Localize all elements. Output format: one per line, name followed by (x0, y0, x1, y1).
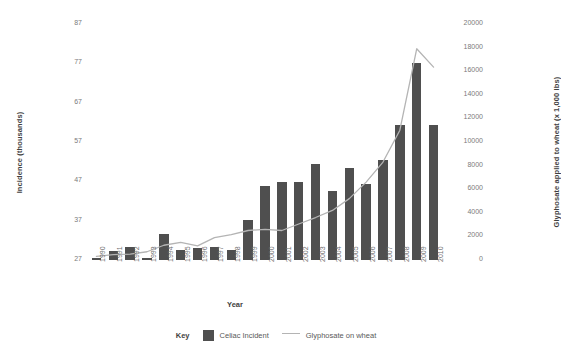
x-axis-tick-2008: 2008 (403, 246, 410, 262)
x-axis-tick-2002: 2002 (302, 246, 309, 262)
x-axis-tick-2005: 2005 (352, 246, 359, 262)
y-axis-right-title: Glyphosate applied to wheat (x 1,000 lbs… (552, 78, 561, 228)
y-axis-left-tick-37: 37 (56, 216, 82, 223)
x-axis-tick-1997: 1997 (217, 246, 224, 262)
x-axis-tick-1991: 1991 (116, 246, 123, 262)
x-axis-tick-2003: 2003 (319, 246, 326, 262)
legend-label-glyphosate-on-wheat: Glyphosate on wheat (306, 331, 376, 340)
y-axis-right-tick-12000: 12000 (449, 113, 483, 120)
legend-item-celiac-incident: Celiac Incident (203, 330, 269, 341)
y-axis-left-tick-47: 47 (56, 176, 82, 183)
y-axis-right-tick-18000: 18000 (449, 43, 483, 50)
x-axis-tick-2009: 2009 (420, 246, 427, 262)
x-axis-tick-2010: 2010 (437, 246, 444, 262)
y-axis-right-tick-6000: 6000 (449, 184, 483, 191)
y-axis-right-tick-20000: 20000 (449, 19, 483, 26)
x-axis-tick-1992: 1992 (133, 246, 140, 262)
y-axis-right-tick-8000: 8000 (449, 161, 483, 168)
y-axis-right-tick-4000: 4000 (449, 208, 483, 215)
y-axis-right-tick-14000: 14000 (449, 90, 483, 97)
chart-legend: Key Celiac Incident Glyphosate on wheat (0, 330, 552, 341)
x-axis-tick-2006: 2006 (369, 246, 376, 262)
line-series-glyphosate-on-wheat (88, 24, 442, 260)
legend-label-celiac-incident: Celiac Incident (220, 331, 269, 340)
x-axis-tick-1996: 1996 (201, 246, 208, 262)
x-axis-tick-1990: 1990 (99, 246, 106, 262)
x-axis-tick-2004: 2004 (335, 246, 342, 262)
y-axis-left-tick-27: 27 (56, 255, 82, 262)
x-axis-tick-1995: 1995 (184, 246, 191, 262)
x-axis-tick-1999: 1999 (251, 246, 258, 262)
line-swatch-icon (282, 333, 300, 334)
x-axis-tick-1998: 1998 (234, 246, 241, 262)
legend-key-label: Key (176, 331, 190, 340)
y-axis-right-tick-16000: 16000 (449, 66, 483, 73)
bar-swatch-icon (203, 330, 214, 341)
x-axis-tick-2007: 2007 (386, 246, 393, 262)
y-axis-left-tick-77: 77 (56, 58, 82, 65)
x-axis-tick-1993: 1993 (150, 246, 157, 262)
x-axis-tick-2000: 2000 (268, 246, 275, 262)
x-axis-tick-2001: 2001 (285, 246, 292, 262)
x-axis-tick-1994: 1994 (167, 246, 174, 262)
glyphosate-line-path (96, 49, 433, 257)
y-axis-left-tick-57: 57 (56, 137, 82, 144)
y-axis-right-tick-2000: 2000 (449, 231, 483, 238)
y-axis-left-tick-87: 87 (56, 19, 82, 26)
x-axis-title: Year (0, 300, 470, 309)
y-axis-right-tick-0: 0 (449, 255, 483, 262)
y-axis-right-tick-10000: 10000 (449, 137, 483, 144)
y-axis-left-title: Incidence (thousands) (15, 98, 24, 208)
plot-area (88, 24, 442, 260)
legend-item-glyphosate-on-wheat: Glyphosate on wheat (282, 331, 376, 340)
y-axis-left-tick-67: 67 (56, 98, 82, 105)
